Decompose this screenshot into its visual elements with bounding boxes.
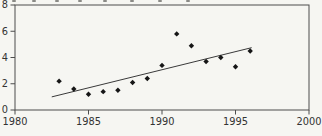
scatter-chart: 1980198519901995200002468 [0,0,322,136]
x-axis-tick-label: 1995 [223,116,248,127]
trend-line [52,48,252,97]
data-point-marker [159,63,164,68]
x-axis-tick-label: 2000 [297,116,322,127]
x-axis-tick-label: 1985 [76,116,101,127]
data-point-marker [233,64,238,69]
data-point-marker [145,76,150,81]
data-point-marker [86,92,91,97]
data-point-marker [248,48,253,53]
plot-area: 1980198519901995200002468 [0,0,322,136]
x-axis-tick-label: 1990 [150,116,175,127]
x-axis-tick-label: 1980 [3,116,28,127]
data-point-marker [115,88,120,93]
y-axis-tick-label: 0 [2,104,8,115]
data-point-marker [56,78,61,83]
data-point-marker [174,31,179,36]
y-axis-tick-label: 6 [2,26,8,37]
y-axis-tick-label: 8 [2,0,8,10]
data-point-marker [130,80,135,85]
data-point-marker [101,89,106,94]
y-axis-tick-label: 2 [2,78,8,89]
plot-frame [15,5,309,110]
data-point-marker [189,43,194,48]
y-axis-tick-label: 4 [2,52,8,63]
